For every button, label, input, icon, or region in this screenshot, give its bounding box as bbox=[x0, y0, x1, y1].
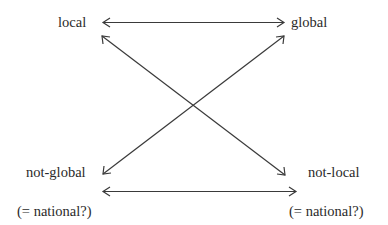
arrows-layer bbox=[0, 0, 388, 225]
concept-diagram: local global not-global not-local (= nat… bbox=[0, 0, 388, 225]
label-global: global bbox=[291, 15, 327, 30]
label-not-local: not-local bbox=[308, 165, 360, 180]
arrow-local-global bbox=[103, 18, 284, 27]
arrow-notglobal-notlocal bbox=[103, 187, 296, 196]
label-not-global: not-global bbox=[26, 165, 86, 180]
note-national-right: (= national?) bbox=[289, 204, 364, 219]
note-national-left: (= national?) bbox=[17, 204, 92, 219]
label-local: local bbox=[58, 15, 86, 30]
